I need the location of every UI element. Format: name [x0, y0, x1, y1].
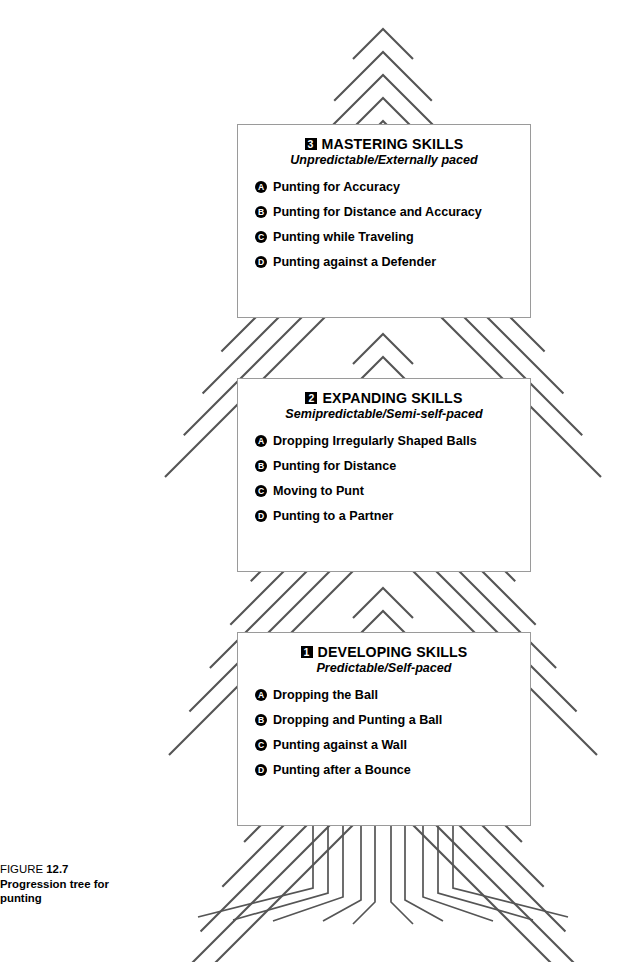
figure-caption: FIGURE 12.7 Progression tree for punting: [0, 862, 150, 906]
progression-tree-figure: 3MASTERING SKILLS Unpredictable/External…: [0, 0, 629, 962]
tier-2-skill-list: A Dropping Irregularly Shaped Balls B Pu…: [238, 434, 530, 523]
list-item: B Punting for Distance: [255, 459, 530, 473]
list-item: D Punting after a Bounce: [255, 763, 530, 777]
marker-c-icon: C: [255, 231, 267, 243]
list-item: A Dropping Irregularly Shaped Balls: [255, 434, 530, 448]
tier-2-number-badge: 2: [305, 392, 317, 404]
tier-2-title-text: EXPANDING SKILLS: [322, 390, 462, 406]
tier-1-skill-list: A Dropping the Ball B Dropping and Punti…: [238, 688, 530, 777]
skill-box-tier-1: 1DEVELOPING SKILLS Predictable/Self-pace…: [237, 632, 531, 826]
marker-d-icon: D: [255, 256, 267, 268]
list-item-label: Dropping the Ball: [273, 688, 530, 702]
list-item-label: Dropping Irregularly Shaped Balls: [273, 434, 530, 448]
tier-1-title-text: DEVELOPING SKILLS: [318, 644, 468, 660]
list-item-label: Punting against a Wall: [273, 738, 530, 752]
tier-3-subtitle: Unpredictable/Externally paced: [238, 153, 530, 167]
list-item-label: Punting for Distance: [273, 459, 530, 473]
tier-3-skill-list: A Punting for Accuracy B Punting for Dis…: [238, 180, 530, 269]
list-item: B Punting for Distance and Accuracy: [255, 205, 530, 219]
list-item: B Dropping and Punting a Ball: [255, 713, 530, 727]
marker-b-icon: B: [255, 206, 267, 218]
marker-d-icon: D: [255, 764, 267, 776]
tier-2-title: 2EXPANDING SKILLS: [238, 390, 530, 406]
tier-1-title: 1DEVELOPING SKILLS: [238, 644, 530, 660]
figure-caption-number: 12.7: [46, 863, 68, 875]
tier-1-subtitle: Predictable/Self-paced: [238, 661, 530, 675]
marker-b-icon: B: [255, 714, 267, 726]
marker-c-icon: C: [255, 739, 267, 751]
list-item: A Punting for Accuracy: [255, 180, 530, 194]
list-item-label: Punting for Distance and Accuracy: [273, 205, 530, 219]
list-item-label: Punting against a Defender: [273, 255, 530, 269]
figure-caption-lead: FIGURE: [0, 863, 43, 875]
marker-a-icon: A: [255, 181, 267, 193]
marker-a-icon: A: [255, 435, 267, 447]
skill-box-tier-3: 3MASTERING SKILLS Unpredictable/External…: [237, 124, 531, 318]
tier-2-subtitle: Semipredictable/Semi-self-paced: [238, 407, 530, 421]
list-item-label: Moving to Punt: [273, 484, 530, 498]
list-item: C Punting against a Wall: [255, 738, 530, 752]
list-item-label: Punting to a Partner: [273, 509, 530, 523]
tier-3-title-text: MASTERING SKILLS: [322, 136, 464, 152]
marker-b-icon: B: [255, 460, 267, 472]
list-item-label: Punting for Accuracy: [273, 180, 530, 194]
list-item-label: Punting after a Bounce: [273, 763, 530, 777]
list-item: C Moving to Punt: [255, 484, 530, 498]
tier-3-title: 3MASTERING SKILLS: [238, 136, 530, 152]
skill-box-tier-2: 2EXPANDING SKILLS Semipredictable/Semi-s…: [237, 378, 531, 572]
list-item: D Punting against a Defender: [255, 255, 530, 269]
marker-a-icon: A: [255, 689, 267, 701]
tier-1-number-badge: 1: [301, 646, 313, 658]
list-item: C Punting while Traveling: [255, 230, 530, 244]
list-item: A Dropping the Ball: [255, 688, 530, 702]
list-item-label: Punting while Traveling: [273, 230, 530, 244]
figure-caption-text: Progression tree for punting: [0, 877, 150, 906]
list-item-label: Dropping and Punting a Ball: [273, 713, 530, 727]
marker-c-icon: C: [255, 485, 267, 497]
tier-3-number-badge: 3: [305, 138, 317, 150]
list-item: D Punting to a Partner: [255, 509, 530, 523]
marker-d-icon: D: [255, 510, 267, 522]
